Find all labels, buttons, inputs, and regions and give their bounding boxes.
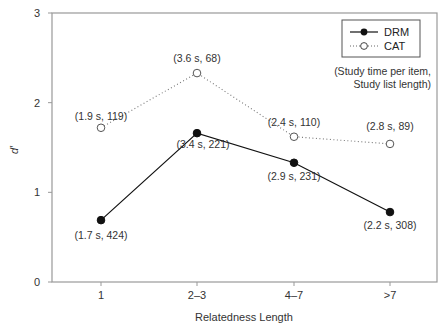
y-tick-label: 0 — [34, 276, 40, 288]
y-tick-label: 1 — [34, 186, 40, 198]
data-point-drm — [193, 129, 201, 137]
x-tick-label: 4–7 — [285, 289, 303, 301]
point-annotation: (2.4 s, 110) — [268, 116, 320, 128]
legend-cat-marker — [361, 43, 368, 50]
y-axis: 0123 — [34, 7, 52, 288]
y-axis-title: d′ — [8, 145, 20, 154]
x-axis-title: Relatedness Length — [195, 311, 293, 323]
data-point-cat — [193, 69, 201, 77]
data-point-drm — [290, 159, 298, 167]
point-annotation: (3.6 s, 68) — [173, 52, 220, 64]
x-tick-label: 1 — [98, 289, 104, 301]
point-annotation: (2.8 s, 89) — [366, 120, 413, 132]
legend: DRM CAT — [342, 20, 420, 57]
legend-label-cat: CAT — [384, 40, 405, 52]
legend-drm-marker — [361, 29, 368, 36]
data-point-cat — [97, 124, 105, 132]
annotation-note-line2: Study list length) — [353, 78, 431, 90]
y-tick-label: 3 — [34, 7, 40, 19]
point-annotation: (1.7 s, 424) — [74, 229, 127, 241]
data-point-drm — [97, 216, 105, 224]
series-line-drm — [101, 133, 390, 220]
legend-label-drm: DRM — [384, 26, 409, 38]
point-annotation: (2.2 s, 308) — [363, 219, 416, 231]
annotation-note-line1: (Study time per item, — [334, 65, 431, 77]
y-tick-label: 2 — [34, 97, 40, 109]
point-annotation: (2.9 s, 231) — [267, 170, 320, 182]
x-tick-label: >7 — [384, 289, 397, 301]
line-chart: 0123 12–34–7>7 d′ Relatedness Length (1.… — [0, 0, 448, 332]
series-line-cat — [101, 73, 390, 144]
x-tick-label: 2–3 — [188, 289, 206, 301]
point-annotation: (3.4 s, 221) — [176, 138, 229, 150]
x-axis: 12–34–7>7 — [98, 282, 396, 301]
data-point-cat — [290, 133, 298, 141]
data-point-cat — [386, 140, 394, 148]
data-point-drm — [386, 208, 394, 216]
point-annotation: (1.9 s, 119) — [75, 110, 127, 122]
